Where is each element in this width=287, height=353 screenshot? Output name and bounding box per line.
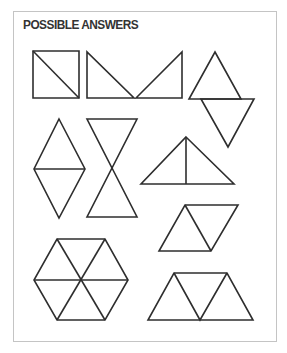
figure-hexagon: [34, 239, 128, 320]
figure-hourglass: [87, 119, 137, 217]
figure-rhombus-split: [34, 119, 85, 218]
figure-two-right-triangles-v: [87, 52, 182, 98]
figure-square-split-diagonal: [33, 51, 79, 98]
shapes-canvas: [0, 0, 287, 353]
figure-isosceles-split: [141, 137, 234, 184]
figure-two-triangles-offset: [189, 52, 254, 147]
figure-trapezoid: [148, 273, 253, 320]
figure-parallelogram: [159, 205, 238, 251]
